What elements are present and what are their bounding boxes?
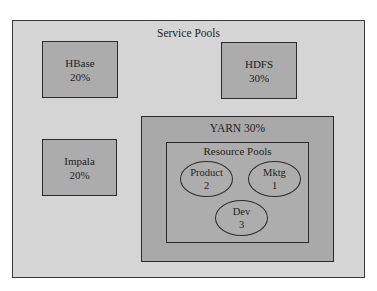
- resource-pool-product: Product 2: [180, 161, 233, 197]
- pool-name: HDFS: [245, 57, 273, 71]
- resource-pool-name: Mktg: [263, 166, 286, 179]
- service-pools-title: Service Pools: [12, 27, 365, 40]
- pool-name: Impala: [64, 154, 95, 168]
- pool-share: 30%: [249, 71, 269, 85]
- resource-pool-weight: 2: [204, 179, 209, 192]
- resource-pool-dev: Dev 3: [215, 200, 268, 236]
- resource-pool-mktg: Mktg 1: [248, 161, 301, 197]
- resource-pool-name: Product: [190, 166, 223, 179]
- service-pool-yarn: YARN 30% Resource Pools Product 2 Mktg 1…: [141, 116, 334, 262]
- resource-pools-title: Resource Pools: [167, 145, 308, 158]
- resource-pool-weight: 1: [272, 179, 277, 192]
- service-pool-impala: Impala 20%: [42, 139, 117, 196]
- pool-name: HBase: [65, 56, 94, 70]
- resource-pool-name: Dev: [233, 205, 251, 218]
- pool-share: 20%: [70, 70, 90, 84]
- resource-pools-container: Resource Pools Product 2 Mktg 1 Dev 3: [166, 142, 309, 243]
- pool-share: 20%: [69, 168, 89, 182]
- service-pool-hbase: HBase 20%: [42, 41, 118, 98]
- service-pool-hdfs: HDFS 30%: [221, 42, 297, 99]
- yarn-label: YARN 30%: [142, 122, 333, 135]
- resource-pool-weight: 3: [239, 218, 244, 231]
